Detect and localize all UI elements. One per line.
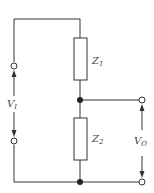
input-terminal-bottom [11, 138, 17, 144]
vi-arrow-down-icon [12, 130, 17, 137]
output-terminal-bottom [139, 179, 145, 185]
vo-arrow-up-icon [140, 104, 145, 111]
vo-label: VO [134, 136, 147, 148]
input-terminal-top [11, 63, 17, 69]
vi-arrow-up-icon [12, 70, 17, 77]
impedance-z2 [74, 118, 87, 160]
top-wire [14, 19, 80, 62]
z2-label: Z2 [92, 134, 103, 146]
junction-node-top [77, 97, 83, 103]
output-terminal-top [139, 97, 145, 103]
vi-label: VI [7, 99, 17, 111]
z1-label: Z1 [92, 56, 103, 68]
circuit-diagram [0, 0, 154, 193]
junction-node-bottom [77, 179, 83, 185]
impedance-z1 [74, 38, 87, 80]
vo-arrow-down-icon [140, 171, 145, 178]
